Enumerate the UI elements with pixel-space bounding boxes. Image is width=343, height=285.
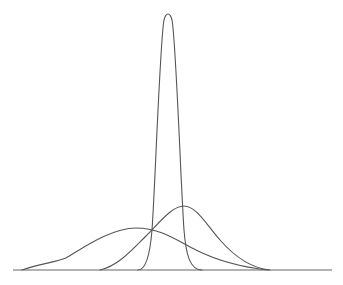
distribution-diagram <box>0 0 343 285</box>
curve-narrow-tall <box>138 14 202 270</box>
